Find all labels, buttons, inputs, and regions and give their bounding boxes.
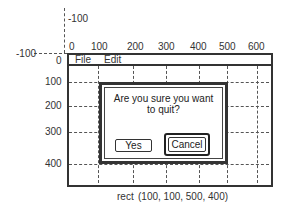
- x-tick-0: 0: [69, 42, 75, 52]
- cancel-button-label: Cancel: [168, 137, 206, 152]
- y-tick-400: 400: [45, 159, 62, 169]
- x-tick-500: 500: [219, 42, 236, 52]
- x-tick-400: 400: [190, 42, 207, 52]
- x-axis-negative-extension: [34, 53, 67, 54]
- x-tick-100: 100: [91, 42, 108, 52]
- menu-file[interactable]: File: [75, 55, 91, 65]
- gridline-y-400: [69, 164, 269, 165]
- x-tick-600: 600: [248, 42, 265, 52]
- y-tick-100: 100: [45, 77, 62, 87]
- gridline-x-600: [257, 66, 258, 183]
- x-neg-label: -100: [16, 49, 36, 59]
- menu-bar: File Edit: [69, 55, 271, 66]
- y-axis-negative-extension: [64, 8, 65, 53]
- y-tick-200: 200: [45, 101, 62, 111]
- y-neg-label: -100: [68, 14, 88, 24]
- dialog-message-line2: to quit?: [102, 104, 225, 115]
- caption-keyword: rect: [117, 192, 134, 202]
- y-tick-0: 0: [56, 56, 62, 66]
- menu-edit[interactable]: Edit: [104, 55, 121, 65]
- dialog-message: Are you sure you want to quit?: [102, 93, 225, 115]
- x-tick-300: 300: [158, 42, 175, 52]
- x-tick-200: 200: [127, 42, 144, 52]
- y-tick-300: 300: [45, 127, 62, 137]
- caption-value: (100, 100, 500, 400): [138, 192, 228, 202]
- yes-button[interactable]: Yes: [115, 139, 152, 152]
- quit-dialog: Are you sure you want to quit? Yes Cance…: [99, 82, 228, 164]
- cancel-button[interactable]: Cancel: [164, 133, 210, 156]
- dialog-message-line1: Are you sure you want: [102, 93, 225, 104]
